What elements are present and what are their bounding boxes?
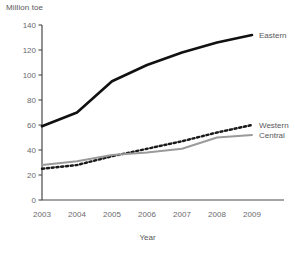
- series-label-eastern: Eastern: [259, 31, 287, 40]
- y-tick-label: 80: [27, 96, 36, 105]
- chart-container: Million toe 020406080100120140 200320042…: [0, 0, 295, 255]
- x-axis-title: Year: [0, 233, 295, 242]
- y-tick-label: 120: [23, 46, 37, 55]
- y-tick-label: 20: [27, 171, 36, 180]
- y-tick-label: 0: [32, 196, 37, 205]
- y-tick-label: 100: [23, 71, 37, 80]
- x-tick-label: 2006: [138, 210, 156, 219]
- series-line-central: [42, 135, 252, 165]
- y-tick-label: 40: [27, 146, 36, 155]
- x-tick-label: 2008: [208, 210, 226, 219]
- series-label-western: Western: [259, 121, 289, 130]
- x-tick-label: 2003: [33, 210, 51, 219]
- x-tick-label: 2007: [173, 210, 191, 219]
- series-label-central: Central: [259, 131, 285, 140]
- line-chart-plot: 020406080100120140 200320042005200620072…: [0, 0, 295, 255]
- x-tick-label: 2005: [103, 210, 121, 219]
- data-series-group: [42, 35, 252, 169]
- x-tick-label: 2004: [68, 210, 86, 219]
- y-tick-labels: 020406080100120140: [23, 21, 37, 205]
- x-tick-labels: 2003200420052006200720082009: [33, 210, 261, 219]
- series-labels-group: EasternWesternCentral: [259, 31, 289, 140]
- y-tick-label: 140: [23, 21, 37, 30]
- series-line-eastern: [42, 35, 252, 126]
- x-tick-label: 2009: [243, 210, 261, 219]
- y-tick-label: 60: [27, 121, 36, 130]
